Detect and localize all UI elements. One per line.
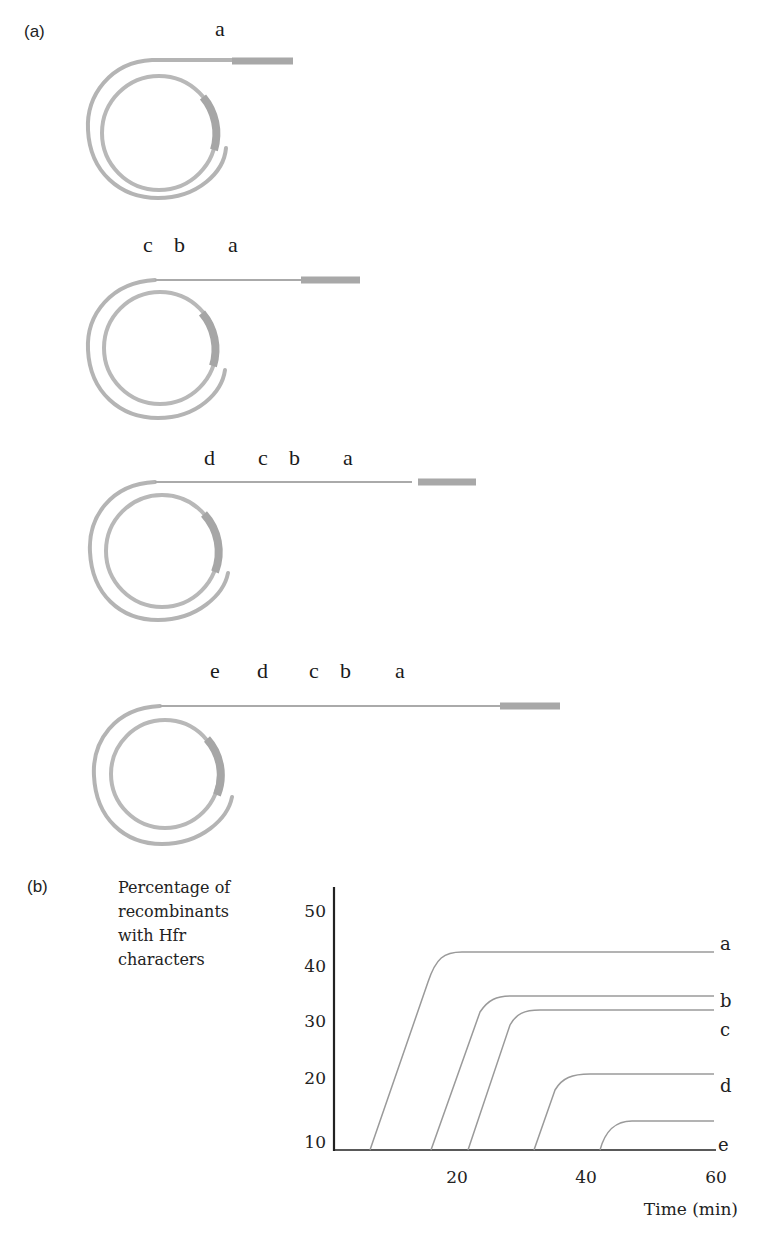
curve-c [468, 1010, 714, 1150]
panel-b-chart: (b) Percentage of recombinants with Hfr … [27, 877, 738, 1219]
transferred-strand [88, 60, 232, 198]
y-tick-30: 30 [304, 1011, 326, 1031]
curve-label-d: d [720, 1075, 732, 1096]
y-axis-label-line-2: recombinants [118, 902, 229, 921]
transferred-strand-curve [88, 280, 225, 418]
gene-label-c: c [309, 658, 319, 683]
gene-label-b: b [174, 232, 185, 257]
gene-label-c: c [143, 232, 153, 257]
curve-b [431, 996, 714, 1150]
gene-label-a: a [228, 232, 238, 257]
panel-a-label: (a) [24, 22, 45, 41]
integrated-f-factor [207, 739, 221, 795]
panel-b-label: (b) [27, 877, 48, 896]
gene-label-d: d [204, 445, 215, 470]
donor-chromosome-ring [111, 720, 219, 828]
gene-label-c: c [258, 445, 268, 470]
gene-label-b: b [289, 445, 300, 470]
transferred-strand-curve [94, 706, 232, 844]
curve-label-b: b [720, 990, 732, 1011]
y-tick-20: 20 [304, 1068, 326, 1088]
transferred-strand-curve [90, 482, 228, 620]
hfr-transfer-diagram-1: a [88, 16, 293, 198]
gene-label-e: e [210, 658, 220, 683]
donor-chromosome-ring [106, 495, 218, 607]
x-tick-20: 20 [446, 1167, 468, 1187]
hfr-transfer-diagram-4: e d c b a [94, 658, 560, 844]
curve-d [534, 1074, 714, 1150]
curve-label-e: e [718, 1134, 729, 1155]
y-axis-label-line-3: with Hfr [118, 926, 187, 945]
donor-chromosome-ring [102, 76, 216, 190]
gene-label-a: a [395, 658, 405, 683]
curve-e [600, 1121, 714, 1150]
x-tick-40: 40 [575, 1167, 597, 1187]
integrated-f-factor [202, 313, 215, 366]
curve-label-c: c [720, 1019, 730, 1040]
x-axis-label: Time (min) [644, 1199, 738, 1219]
curve-label-a: a [720, 933, 731, 954]
y-tick-10: 10 [304, 1132, 326, 1152]
gene-label-d: d [257, 658, 268, 683]
integrated-f-factor [204, 514, 219, 572]
y-axis-label-line-4: characters [118, 950, 205, 969]
y-tick-50: 50 [304, 901, 326, 921]
gene-label-a: a [215, 16, 225, 41]
donor-chromosome-ring [104, 292, 216, 404]
y-axis-label-line-1: Percentage of [118, 878, 231, 897]
hfr-transfer-diagram-3: d c b a [90, 445, 476, 620]
gene-label-a: a [343, 445, 353, 470]
hfr-transfer-diagram-2: c b a [88, 232, 360, 418]
gene-label-b: b [340, 658, 351, 683]
integrated-f-factor [203, 97, 216, 150]
x-tick-60: 60 [705, 1167, 727, 1187]
conjugation-figure: (a) a c b a d c b a e d c b a [0, 0, 763, 1251]
y-tick-40: 40 [304, 956, 326, 976]
